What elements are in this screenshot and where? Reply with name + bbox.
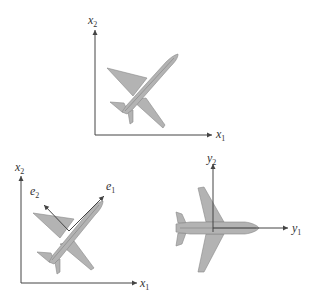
airplane-icon	[107, 54, 178, 128]
x2-label: x2	[14, 160, 24, 176]
e2-label: e2	[30, 184, 39, 200]
x2-label: x2	[87, 13, 97, 29]
x1-label: x1	[215, 127, 225, 143]
e1-label: e1	[106, 179, 115, 195]
airplane-icon	[176, 187, 259, 272]
x1-label: x1	[139, 276, 149, 292]
bottom-left-panel: x2 x1 e1 e2	[14, 160, 149, 292]
airplane-icon	[33, 201, 103, 274]
y1-label: y1	[291, 221, 301, 237]
y2-label: y2	[206, 151, 216, 167]
bottom-right-panel: y2 y1	[176, 151, 301, 272]
coordinate-frames-diagram: x2 x1 x2 x1 e1 e2	[0, 0, 317, 303]
top-panel: x2 x1	[87, 13, 225, 143]
